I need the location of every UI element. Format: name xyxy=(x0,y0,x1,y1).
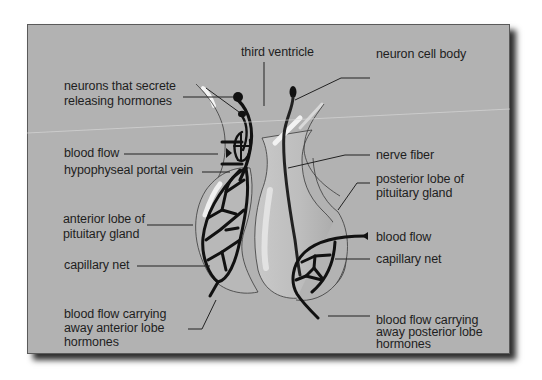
label-posterior-lobe-1: posterior lobe of xyxy=(376,173,464,186)
label-capillary-net-left: capillary net xyxy=(64,259,129,272)
label-posterior-lobe-2: pituitary gland xyxy=(376,187,452,200)
blood-flow-arrow-icon xyxy=(226,148,232,158)
secreting-neurons xyxy=(222,92,252,180)
label-blood-away-anterior-3: hormones xyxy=(64,336,119,349)
label-blood-flow-right: blood flow xyxy=(376,231,431,244)
label-blood-away-anterior-1: blood flow carrying xyxy=(64,308,166,321)
label-hypophyseal-portal-vein: hypophyseal portal vein xyxy=(64,164,193,177)
label-nerve-fiber: nerve fiber xyxy=(376,149,434,162)
label-neuron-cell-body: neuron cell body xyxy=(376,48,466,61)
label-blood-flow-left: blood flow xyxy=(64,147,119,160)
label-neurons-secrete-2: releasing hormones xyxy=(64,95,172,108)
label-capillary-net-right: capillary net xyxy=(376,253,441,266)
label-blood-away-posterior-3: hormones xyxy=(376,338,431,351)
label-neurons-secrete-1: neurons that secrete xyxy=(64,80,176,93)
label-anterior-lobe-1: anterior lobe of xyxy=(63,213,145,226)
blood-flow-right-arrow-icon xyxy=(362,232,368,240)
label-third-ventricle: third ventricle xyxy=(241,46,314,59)
label-blood-away-anterior-2: away anterior lobe xyxy=(64,322,164,335)
label-anterior-lobe-2: pituitary gland xyxy=(63,228,139,241)
